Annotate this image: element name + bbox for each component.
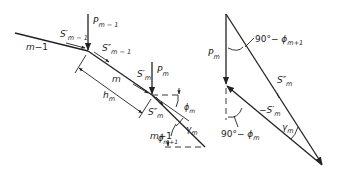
label-90-minus-phi-m: 90°− ϕm bbox=[221, 129, 260, 142]
label-p-m-left: Pm bbox=[157, 65, 169, 78]
label-p-m-minus-1: Pm − 1 bbox=[93, 16, 118, 29]
label-gamma-m: γm bbox=[186, 124, 198, 137]
label-s-prime-m-minus-1: S′m − 1 bbox=[60, 29, 88, 42]
label-s-double-prime-m-minus-1: S″m − 1 bbox=[102, 43, 131, 56]
force-diagram: m−1 S′m − 1 Pm − 1 S″m − 1 m S′m Pm hm S… bbox=[0, 0, 339, 176]
label-s-prime-m: S′m bbox=[137, 69, 151, 82]
label-s-double-prime-m-right: S″m bbox=[277, 75, 292, 88]
vector-minus-s-prime-m bbox=[227, 86, 322, 165]
right-force-polygon: Pm 90°− ϕm+1 S″m −S′m γm 90°− ϕm bbox=[208, 14, 322, 165]
leader-90-minus-phi-m-plus-1 bbox=[245, 38, 254, 47]
left-structure-diagram: m−1 S′m − 1 Pm − 1 S″m − 1 m S′m Pm hm S… bbox=[15, 14, 205, 147]
label-p-m-right: Pm bbox=[208, 48, 220, 61]
angle-arc-90-minus-phi-m-plus-1 bbox=[228, 47, 243, 50]
label-90-minus-phi-m-plus-1: 90°− ϕm+1 bbox=[255, 34, 303, 47]
angle-arc-phi-m bbox=[176, 95, 178, 107]
force-arrow-s-prime-m bbox=[133, 84, 148, 93]
leader-90-minus-phi-m bbox=[234, 116, 238, 127]
angle-arc-90-minus-phi-m bbox=[228, 108, 242, 117]
label-s-double-prime-m: S″m bbox=[148, 107, 163, 120]
label-member-m: m bbox=[112, 74, 121, 84]
label-member-m-minus-1: m−1 bbox=[26, 42, 48, 52]
dimension-extension-top bbox=[75, 55, 86, 73]
label-phi-m: ϕm bbox=[184, 103, 195, 114]
dimension-line-h-m bbox=[79, 68, 142, 113]
